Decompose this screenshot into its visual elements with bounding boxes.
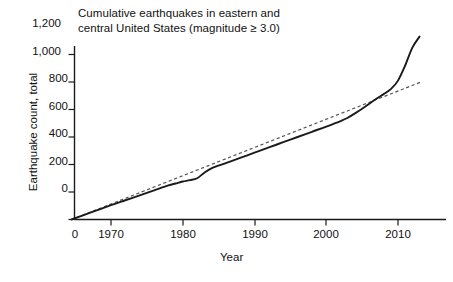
chart-figure: Cumulative earthquakes in eastern and ce… (0, 0, 453, 282)
trend-line-series (72, 82, 421, 220)
plot-area (0, 0, 453, 282)
cumulative-line-series (72, 37, 420, 220)
